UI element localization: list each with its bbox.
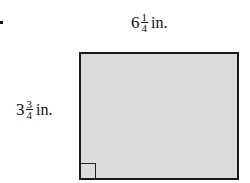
- width-whole: 6: [131, 13, 140, 33]
- height-whole: 3: [16, 100, 25, 120]
- width-label: 6 1 4 in.: [131, 12, 167, 33]
- width-denominator: 4: [142, 23, 148, 33]
- height-label: 3 3 4 in.: [16, 99, 52, 120]
- height-unit: in.: [36, 101, 52, 119]
- right-angle-marker: [81, 163, 96, 178]
- height-denominator: 4: [27, 110, 33, 120]
- width-fraction: 1 4: [141, 12, 149, 33]
- bullet-dot: [0, 21, 3, 24]
- width-unit: in.: [151, 14, 167, 32]
- height-fraction: 3 4: [26, 99, 34, 120]
- rectangle-shape: [79, 52, 239, 180]
